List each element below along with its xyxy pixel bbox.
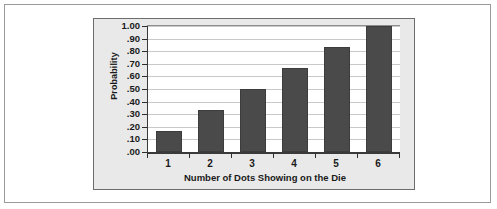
bar-series (148, 26, 400, 152)
y-axis-tick-label: 1.00 (110, 21, 140, 31)
y-axis-tick-label: .60 (110, 72, 140, 82)
bar-slot (358, 26, 400, 152)
y-axis-tick-label: .00 (110, 147, 140, 157)
bar-slot (274, 26, 316, 152)
bar[interactable] (282, 68, 307, 152)
x-axis-title: Number of Dots Showing on the Die (124, 172, 406, 183)
bar-slot (148, 26, 190, 152)
y-axis-tick-labels: 1.00.90.80.70.60.50.40.30.20.10.00 (110, 26, 140, 152)
bar[interactable] (156, 131, 181, 152)
x-axis-tick-label: 6 (357, 158, 399, 169)
y-axis-tick-label: .70 (110, 59, 140, 69)
y-axis-tick-label: .40 (110, 97, 140, 107)
y-axis-tick-label: .10 (110, 135, 140, 145)
y-axis-tick-label: .50 (110, 84, 140, 94)
bar[interactable] (366, 26, 391, 152)
y-axis-tick-label: .30 (110, 109, 140, 119)
bar-slot (316, 26, 358, 152)
x-axis-tick-label: 3 (231, 158, 273, 169)
page-frame: Probability 1.00.90.80.70.60.50.40.30.20… (4, 4, 491, 203)
y-axis-tick-label: .20 (110, 122, 140, 132)
y-axis-tick-label: .80 (110, 46, 140, 56)
bar[interactable] (240, 89, 265, 152)
bar[interactable] (324, 47, 349, 152)
bar[interactable] (198, 110, 223, 152)
x-axis-tick-labels: 123456 (147, 158, 399, 169)
bar-slot (232, 26, 274, 152)
x-axis-tick-label: 1 (147, 158, 189, 169)
x-axis-tick-mark (399, 153, 400, 158)
x-axis-tick-label: 2 (189, 158, 231, 169)
plot-area (147, 26, 400, 152)
x-axis-tick-label: 5 (315, 158, 357, 169)
y-axis-tick-label: .90 (110, 34, 140, 44)
chart-panel: Probability 1.00.90.80.70.60.50.40.30.20… (93, 18, 415, 190)
x-axis-tick-label: 4 (273, 158, 315, 169)
bar-slot (190, 26, 232, 152)
